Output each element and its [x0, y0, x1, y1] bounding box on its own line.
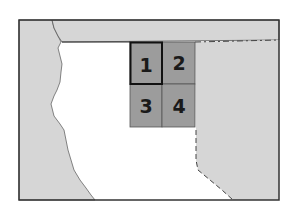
top-land-region — [52, 20, 279, 42]
grid-cell-4-label: 4 — [172, 95, 185, 117]
map: 1 2 3 4 — [0, 0, 292, 212]
grid: 1 2 3 4 — [130, 42, 195, 127]
grid-cell-2-label: 2 — [172, 52, 185, 74]
grid-cell-3-label: 3 — [139, 95, 152, 117]
right-land-region — [195, 40, 279, 200]
grid-cell-1-label: 1 — [139, 54, 152, 76]
